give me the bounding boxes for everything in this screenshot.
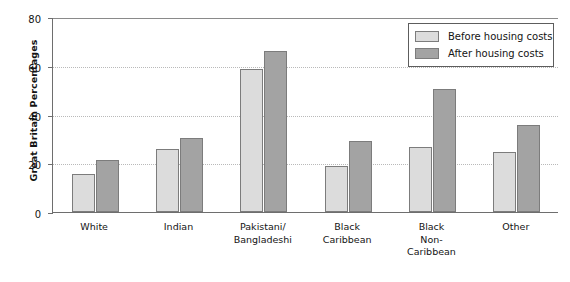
x-axis-label-2: Pakistani/Bangladeshi xyxy=(221,221,305,246)
y-tick-label-20: 20 xyxy=(28,160,41,171)
bar-before-0 xyxy=(72,174,95,212)
bar-before-2 xyxy=(240,69,263,212)
x-axis-label-1: Indian xyxy=(136,221,220,234)
x-axis-label-5: Other xyxy=(474,221,558,234)
y-tick-label-60: 60 xyxy=(28,62,41,73)
legend-item-after: After housing costs xyxy=(415,46,546,61)
x-axis-label-line: Caribbean xyxy=(389,246,473,259)
x-axis-label-line: Pakistani/ xyxy=(221,221,305,234)
legend-label-after: After housing costs xyxy=(448,48,544,59)
x-axis-label-line: Other xyxy=(474,221,558,234)
y-tick-label-80: 80 xyxy=(28,14,41,25)
y-tick-label-40: 40 xyxy=(28,111,41,122)
x-axis-label-3: BlackCaribbean xyxy=(305,221,389,246)
bar-after-1 xyxy=(180,138,203,212)
x-axis-label-line: White xyxy=(52,221,136,234)
legend-item-before: Before housing costs xyxy=(415,29,546,44)
y-tick-0: 0 xyxy=(48,213,53,214)
bar-after-5 xyxy=(517,125,540,212)
legend-swatch-before-icon xyxy=(415,31,439,42)
x-axis-label-line: Bangladeshi xyxy=(221,234,305,247)
legend-label-before: Before housing costs xyxy=(448,31,552,42)
bar-before-4 xyxy=(409,147,432,212)
bar-chart: Great Britain Percentages 020406080 Whit… xyxy=(0,0,570,282)
x-axis-label-line: Black xyxy=(305,221,389,234)
bar-after-4 xyxy=(433,89,456,212)
x-axis-label-line: Black xyxy=(389,221,473,234)
x-axis-label-0: White xyxy=(52,221,136,234)
legend-swatch-after-icon xyxy=(415,48,439,59)
x-axis-label-line: Non- xyxy=(389,234,473,247)
x-axis-label-line: Caribbean xyxy=(305,234,389,247)
bar-after-0 xyxy=(96,160,119,212)
bar-before-5 xyxy=(493,152,516,212)
x-axis-label-line: Indian xyxy=(136,221,220,234)
y-tick-label-0: 0 xyxy=(35,209,41,220)
bar-after-3 xyxy=(349,141,372,212)
x-axis-label-4: BlackNon-Caribbean xyxy=(389,221,473,259)
legend: Before housing costs After housing costs xyxy=(408,23,554,67)
bar-before-3 xyxy=(325,166,348,212)
bar-after-2 xyxy=(264,51,287,212)
bar-before-1 xyxy=(156,149,179,212)
